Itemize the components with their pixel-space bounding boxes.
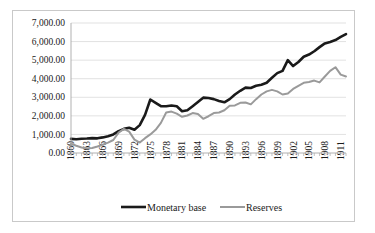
x-axis-tick-label: 1893 [241,141,251,160]
legend-label: Reserves [246,202,282,213]
x-axis-tick-label: 1905 [304,141,314,160]
y-axis-tick-label: 7,000.00 [32,18,66,28]
y-axis-tick-label: 5,000.00 [32,55,66,65]
x-axis-tick-label: 1878 [162,141,172,160]
x-axis-tick-label: 1899 [273,141,283,160]
plot-series [71,34,346,148]
chart-container: 0.001,000.002,000.003,000.004,000.005,00… [12,10,355,222]
y-axis-tick-labels: 0.001,000.002,000.003,000.004,000.005,00… [32,18,66,158]
y-axis-tick-label: 0.00 [48,148,65,158]
y-axis-tick-label: 2,000.00 [32,111,66,121]
x-axis-tick-label: 1863 [82,141,92,160]
series-line [71,34,346,139]
x-axis-tick-label: 1881 [177,141,187,160]
y-axis-tick-label: 6,000.00 [32,37,66,47]
x-axis-tick-labels: 1860186318661869187218751878188118841887… [66,141,346,160]
gridlines [71,23,346,134]
x-axis-tick-label: 1875 [146,141,156,160]
x-axis-tick-label: 1887 [209,141,219,160]
x-axis-tick-label: 1872 [130,141,140,160]
legend-label: Monetary base [147,202,207,213]
x-axis-tick-label: 1884 [193,141,203,160]
y-axis-tick-label: 4,000.00 [32,74,66,84]
x-axis-tick-label: 1911 [336,141,346,160]
y-axis-tick-label: 3,000.00 [32,92,66,102]
chart-legend: Monetary baseReserves [121,202,282,213]
line-chart: 0.001,000.002,000.003,000.004,000.005,00… [13,11,354,221]
y-axis-tick-label: 1,000.00 [32,130,66,140]
x-axis-tick-label: 1908 [320,141,330,160]
x-axis-tick-label: 1869 [114,141,124,160]
x-axis-tick-label: 1896 [257,141,267,160]
x-axis-tick-label: 1902 [289,141,299,160]
x-axis-tick-label: 1890 [225,141,235,160]
